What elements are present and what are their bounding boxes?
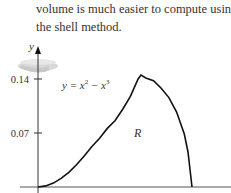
- tick-label-007: 0.07: [11, 128, 29, 139]
- curve: [38, 75, 192, 187]
- y-axis-label: y: [28, 40, 34, 52]
- region-label: R: [133, 126, 142, 140]
- tick-label-014: 0.14: [11, 74, 30, 85]
- y-axis-arrow-icon: [35, 46, 41, 54]
- curve-equation: y = x2 − x3: [61, 78, 110, 91]
- graph: 0.14 0.07 y y = x2 − x3 R: [0, 0, 231, 193]
